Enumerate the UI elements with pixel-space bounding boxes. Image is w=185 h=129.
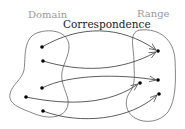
range-point — [156, 49, 160, 53]
diagram-title: Correspondence — [63, 18, 151, 30]
domain-set-outline — [10, 31, 69, 117]
range-set-outline — [126, 30, 175, 122]
domain-point — [41, 59, 45, 63]
domain-point — [40, 86, 44, 90]
mapping-arrows — [26, 31, 157, 119]
domain-point — [40, 45, 44, 49]
domain-point — [24, 95, 28, 99]
range-point — [157, 92, 161, 96]
arrow-1 — [42, 31, 156, 50]
arrow-2 — [43, 52, 156, 68]
correspondence-diagram: Domain Range Correspondence — [0, 0, 185, 129]
domain-label: Domain — [28, 9, 68, 20]
range-points — [138, 49, 161, 96]
range-point — [156, 78, 160, 82]
domain-points — [24, 45, 45, 113]
domain-point — [41, 109, 45, 113]
range-point — [138, 81, 142, 85]
